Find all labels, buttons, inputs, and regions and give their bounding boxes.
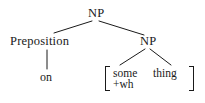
feature-thing: thing [153, 68, 187, 79]
left-square-bracket-icon [105, 66, 110, 91]
node-preposition-word: on [40, 71, 52, 83]
node-preposition: Preposition [10, 35, 69, 48]
feature-matrix-row: some thing [113, 68, 187, 79]
syntax-tree-diagram: NP Preposition on NP some thing +wh [0, 0, 205, 103]
feature-matrix-body: some thing +wh [110, 66, 189, 91]
feature-matrix-row: +wh [113, 79, 187, 90]
feature-some: some [113, 68, 153, 79]
feature-plus-wh: +wh [113, 79, 153, 90]
edge-inner-np-to-some [120, 49, 145, 65]
node-inner-np: NP [140, 35, 156, 48]
edge-inner-np-to-thing [150, 49, 171, 65]
edge-root-to-inner-np [99, 21, 144, 35]
feature-matrix: some thing +wh [105, 66, 194, 91]
right-square-bracket-icon [189, 66, 194, 91]
node-root-np: NP [88, 7, 104, 20]
edge-root-to-preposition [54, 21, 92, 33]
